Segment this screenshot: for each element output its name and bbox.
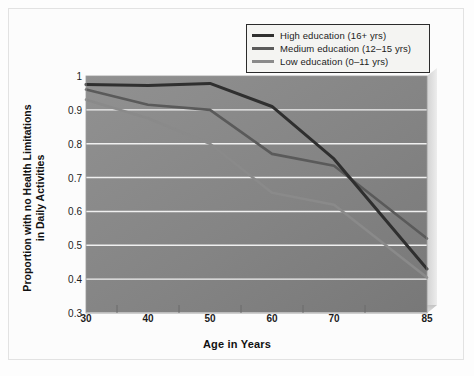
legend-item: High education (16+ yrs) [252,29,423,42]
y-axis-title-line1: Proportion with no Health Limitations [21,104,33,291]
y-tick-label: 0.7 [48,172,82,183]
x-tick-label: 30 [66,313,106,324]
legend-item: Medium education (12–15 yrs) [252,42,423,55]
figure-container: 10.90.80.70.60.50.40.3 304050607085 Age … [0,0,474,376]
y-tick-label: 1 [48,71,82,82]
x-tick-label: 40 [128,313,168,324]
x-tick-label: 85 [407,313,447,324]
plot-area-background [86,76,427,313]
legend-item-label: High education (16+ yrs) [280,30,386,41]
legend-item-label: Low education (0–11 yrs) [280,56,388,67]
y-tick-label: 0.6 [48,206,82,217]
legend-swatch-icon [252,60,274,63]
y-axis-title-line2: in Daily Activities [34,155,46,242]
y-axis-title: Proportion with no Health Limitations in… [21,78,47,318]
x-tick-label: 50 [190,313,230,324]
y-tick-label: 0.9 [48,104,82,115]
legend-item: Low education (0–11 yrs) [252,55,423,68]
x-tick-label: 70 [314,313,354,324]
x-axis-tick-labels: 304050607085 [0,313,474,329]
y-tick-label: 0.4 [48,274,82,285]
legend-item-label: Medium education (12–15 yrs) [280,43,411,54]
plot-side-panel [427,68,437,313]
chart-legend: High education (16+ yrs)Medium education… [246,24,430,73]
x-axis-title: Age in Years [0,338,474,350]
legend-swatch-icon [252,34,274,37]
legend-swatch-icon [252,47,274,50]
x-tick-label: 60 [252,313,292,324]
y-tick-label: 0.8 [48,138,82,149]
y-tick-label: 0.5 [48,240,82,251]
